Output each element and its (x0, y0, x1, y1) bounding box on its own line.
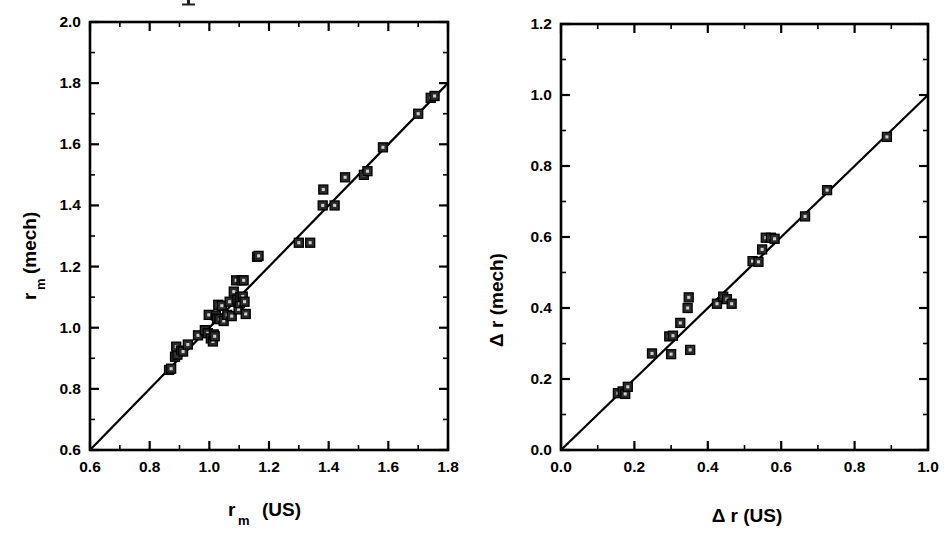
plot-frame (90, 22, 448, 450)
major-ticks: 0.60.81.01.21.41.61.80.60.81.01.21.41.61… (59, 13, 459, 475)
x-tick-label: 1.4 (318, 458, 340, 475)
data-point-core (196, 334, 199, 337)
data-point-core (257, 254, 260, 257)
data-point-core (309, 241, 312, 244)
x-axis-title: Δ r (US) (712, 505, 783, 526)
data-point-core (671, 334, 674, 337)
x-tick-label: 0.0 (550, 458, 572, 475)
y-tick-label: 1.6 (59, 135, 81, 152)
data-point-core (826, 189, 829, 192)
y-tick-label: 1.0 (59, 319, 81, 336)
data-point-core (670, 353, 673, 356)
chart-panel-right: 0.00.20.40.60.81.00.00.20.40.60.81.01.2Δ… (475, 0, 951, 552)
y-tick-label: 0.2 (530, 370, 552, 387)
y-axis-title: rm(mech) (19, 212, 48, 300)
data-point-core (804, 215, 807, 218)
data-point-core (417, 112, 420, 115)
data-point-core (182, 350, 185, 353)
fit-line (90, 83, 448, 450)
major-ticks: 0.00.20.40.60.81.00.00.20.40.60.81.01.2 (530, 15, 938, 475)
x-tick-label: 0.8 (139, 458, 161, 475)
y-tick-label: 0.8 (59, 380, 81, 397)
data-point-core (186, 343, 189, 346)
data-point-core (624, 392, 627, 395)
y-tick-label: 0.8 (530, 157, 552, 174)
chart-panel-left: 0.60.81.01.21.41.61.80.60.81.01.21.41.61… (0, 0, 476, 552)
x-tick-label: 1.0 (199, 458, 221, 475)
y-axis-title-main: r (19, 292, 40, 300)
x-tick-label: 1.2 (258, 458, 280, 475)
x-tick-label: 0.6 (79, 458, 101, 475)
data-point-core (244, 312, 247, 315)
data-point-core (333, 204, 336, 207)
data-point-core (757, 260, 760, 263)
data-point-core (679, 321, 682, 324)
data-point-core (715, 302, 718, 305)
data-point-core (686, 306, 689, 309)
x-axis-title-main: r (228, 499, 236, 520)
data-point-core (321, 204, 324, 207)
data-point-core (344, 176, 347, 179)
x-tick-label: 0.4 (697, 458, 719, 475)
x-tick-label: 0.6 (770, 458, 792, 475)
data-point-core (687, 296, 690, 299)
x-tick-label: 1.0 (917, 458, 939, 475)
x-axis-title: rm(US) (228, 499, 301, 528)
y-tick-label: 0.6 (59, 441, 81, 458)
y-axis-title-text: Δ r (mech) (486, 253, 507, 347)
x-tick-label: 0.8 (844, 458, 866, 475)
x-axis-title-tail: (US) (262, 499, 301, 520)
data-point-core (381, 146, 384, 149)
x-tick-label: 1.8 (437, 458, 459, 475)
data-points (613, 132, 891, 398)
x-tick-label: 0.2 (624, 458, 646, 475)
scatter-plot-right: 0.00.20.40.60.81.00.00.20.40.60.81.01.2Δ… (475, 0, 951, 552)
y-axis-title: Δ r (mech) (486, 253, 507, 347)
y-axis-title-tail: (mech) (19, 212, 40, 274)
y-axis-title-sub: m (33, 278, 48, 290)
y-tick-label: 1.2 (59, 258, 81, 275)
figure-two-scatter-panels: 0.60.81.01.21.41.61.80.60.81.01.21.41.61… (0, 0, 951, 552)
data-point-core (626, 385, 629, 388)
data-point-core (366, 170, 369, 173)
y-tick-label: 0.6 (530, 228, 552, 245)
minor-ticks (90, 22, 448, 450)
y-tick-label: 1.0 (530, 86, 552, 103)
data-point-core (228, 300, 231, 303)
data-point-core (230, 315, 233, 318)
data-point-core (242, 279, 245, 282)
data-point-core (243, 300, 246, 303)
data-point-core (297, 241, 300, 244)
data-point-core (213, 335, 216, 338)
data-point-core (207, 313, 210, 316)
y-tick-label: 1.4 (59, 196, 81, 213)
y-tick-label: 2.0 (59, 13, 81, 30)
x-tick-label: 1.6 (378, 458, 400, 475)
x-axis-title-sub: m (238, 513, 250, 528)
data-point-core (689, 348, 692, 351)
y-tick-label: 1.8 (59, 74, 81, 91)
y-tick-label: 0.4 (530, 299, 552, 316)
data-point-core (232, 290, 235, 293)
data-point-core (885, 135, 888, 138)
data-point-core (433, 94, 436, 97)
data-point-core (170, 367, 173, 370)
plot-frame (561, 24, 928, 450)
y-tick-label: 0.0 (530, 441, 552, 458)
y-tick-label: 1.2 (530, 15, 552, 32)
data-point-core (761, 248, 764, 251)
data-point-core (773, 237, 776, 240)
data-point-core (322, 188, 325, 191)
data-point-core (220, 304, 223, 307)
scatter-plot-left: 0.60.81.01.21.41.61.80.60.81.01.21.41.61… (0, 0, 476, 552)
data-point-core (650, 352, 653, 355)
minor-ticks (561, 24, 928, 450)
data-point-core (730, 302, 733, 305)
